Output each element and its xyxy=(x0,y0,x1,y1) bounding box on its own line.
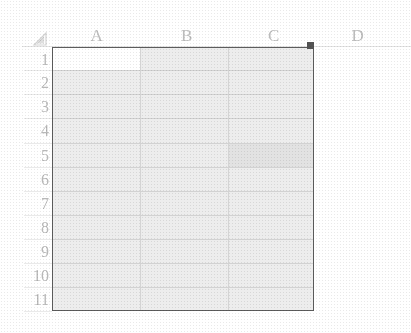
row-rule-7 xyxy=(24,215,52,216)
gridline-row-9-10 xyxy=(53,263,313,264)
cell-shade-c5[interactable] xyxy=(229,144,313,167)
active-cell-a1[interactable] xyxy=(53,48,141,71)
row-rule-9 xyxy=(24,263,52,264)
row-header-5[interactable]: 5 xyxy=(22,145,49,167)
row-header-4[interactable]: 4 xyxy=(22,120,49,142)
gridline-row-7-8 xyxy=(53,215,313,216)
gridline-col-ab xyxy=(140,48,141,310)
row-header-6[interactable]: 6 xyxy=(22,169,49,191)
row-rule-11 xyxy=(24,311,52,312)
row-rule-5 xyxy=(24,167,52,168)
gridline-row-1-2 xyxy=(53,70,313,71)
row-header-10[interactable]: 10 xyxy=(22,265,49,287)
gridline-row-2-3 xyxy=(53,94,313,95)
select-all-triangle-icon[interactable] xyxy=(31,31,49,46)
gridline-row-8-9 xyxy=(53,239,313,240)
row-header-2[interactable]: 2 xyxy=(22,72,49,94)
row-header-7[interactable]: 7 xyxy=(22,193,49,215)
row-header-9[interactable]: 9 xyxy=(22,241,49,263)
gridline-row-4-5 xyxy=(53,143,313,144)
fill-handle[interactable] xyxy=(307,42,314,49)
column-header-b[interactable]: B xyxy=(167,26,207,46)
row-rule-2 xyxy=(24,94,52,95)
gridline-col-bc xyxy=(228,48,229,310)
column-header-d[interactable]: D xyxy=(338,26,378,46)
gridline-row-10-11 xyxy=(53,287,313,288)
spreadsheet-grid: A B C D 1 2 3 4 5 6 7 8 9 10 11 xyxy=(0,0,411,333)
gridline-row-6-7 xyxy=(53,191,313,192)
column-header-a[interactable]: A xyxy=(77,26,117,46)
row-rule-1 xyxy=(24,70,52,71)
row-header-8[interactable]: 8 xyxy=(22,217,49,239)
row-header-3[interactable]: 3 xyxy=(22,96,49,118)
row-rule-3 xyxy=(24,118,52,119)
column-header-c[interactable]: C xyxy=(254,26,294,46)
gridline-row-3-4 xyxy=(53,118,313,119)
row-rule-8 xyxy=(24,239,52,240)
row-rule-10 xyxy=(24,287,52,288)
row-header-1[interactable]: 1 xyxy=(22,49,49,71)
gridline-row-5-6 xyxy=(53,167,313,168)
selected-range[interactable] xyxy=(52,47,314,311)
row-rule-6 xyxy=(24,191,52,192)
row-rule-4 xyxy=(24,143,52,144)
row-header-11[interactable]: 11 xyxy=(22,289,49,311)
